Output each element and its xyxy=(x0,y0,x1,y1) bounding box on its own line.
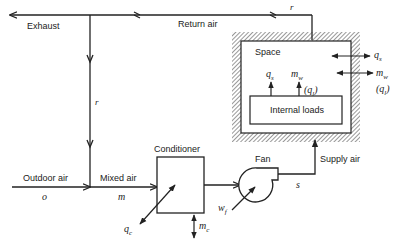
return-r-symbol: r xyxy=(290,3,294,12)
wf-label: wf xyxy=(218,203,227,216)
external-mw-label: mw xyxy=(376,68,388,81)
return-air-label: Return air xyxy=(178,20,218,29)
supply-air-duct xyxy=(278,140,315,174)
supply-air-label: Supply air xyxy=(320,155,360,164)
internal-loads-label: Internal loads xyxy=(270,106,324,115)
mc-label: mc xyxy=(199,221,209,234)
internal-ql-label: (ql) xyxy=(304,85,318,98)
external-ql-label: (ql) xyxy=(376,84,390,97)
mixed-m-symbol: m xyxy=(118,192,125,202)
internal-mw-label: mw xyxy=(291,69,303,82)
diagram-canvas xyxy=(0,0,398,243)
outdoor-air-label: Outdoor air xyxy=(23,174,68,183)
internal-qs-label: qs xyxy=(266,69,274,82)
space-enclosure xyxy=(232,32,360,142)
qc-label: qc xyxy=(124,224,132,237)
recirc-r-symbol: r xyxy=(95,98,99,107)
supply-s-symbol: s xyxy=(296,180,300,190)
external-qs-label: qs xyxy=(374,50,382,63)
conditioner-label: Conditioner xyxy=(154,145,200,154)
recirculation-duct xyxy=(87,15,93,187)
space-label: Space xyxy=(255,48,281,57)
conditioner-box xyxy=(157,157,204,213)
outdoor-o-symbol: o xyxy=(42,192,47,202)
exhaust-label: Exhaust xyxy=(27,22,60,31)
fan-label: Fan xyxy=(255,155,271,164)
mixed-air-label: Mixed air xyxy=(100,174,137,183)
